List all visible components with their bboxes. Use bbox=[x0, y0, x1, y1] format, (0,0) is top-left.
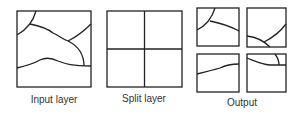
output-tile-bottom-right bbox=[247, 54, 286, 92]
output-tile-top-right bbox=[247, 8, 286, 47]
output-label: Output bbox=[197, 97, 287, 108]
split-layer-panel bbox=[107, 11, 182, 87]
output-tile-bottom-left bbox=[197, 54, 239, 92]
output-tile-top-left bbox=[197, 8, 239, 46]
input-layer-label: Input layer bbox=[9, 94, 99, 105]
split-layer-label: Split layer bbox=[99, 93, 189, 104]
input-layer-panel bbox=[17, 11, 91, 87]
